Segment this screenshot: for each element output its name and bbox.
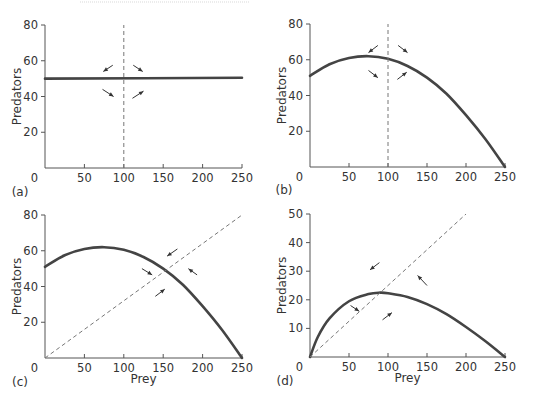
- trajectory-arrow-icon: [188, 269, 197, 275]
- x-tick-label: 50: [77, 361, 92, 375]
- isocline-dashed: [310, 214, 466, 357]
- x-tick-label: 150: [416, 170, 438, 184]
- x-tick-label: 50: [342, 360, 357, 374]
- isocline-solid: [310, 293, 505, 357]
- trajectory-arrow-icon: [383, 313, 392, 320]
- trajectory-arrow-icon: [167, 249, 177, 256]
- y-tick-label: 80: [23, 18, 38, 32]
- y-tick-label: 40: [288, 89, 303, 103]
- x-axis-title: Prey: [130, 372, 156, 386]
- panel-c: 20406080050100150200250PredatorsPrey(c): [10, 208, 253, 389]
- y-tick-label: 20: [23, 125, 38, 139]
- x-tick-label: 200: [455, 170, 477, 184]
- isocline-solid: [310, 56, 505, 167]
- y-tick-label: 60: [23, 54, 38, 68]
- y-tick-label: 80: [23, 208, 38, 222]
- x-axis-title: Prey: [394, 371, 420, 385]
- trajectory-arrow-icon: [103, 89, 114, 96]
- x-tick-label: 200: [192, 361, 214, 375]
- trajectory-arrow-icon: [369, 45, 378, 52]
- x-tick-label: 200: [192, 171, 214, 185]
- y-tick-label: 20: [288, 293, 303, 307]
- trajectory-arrow-icon: [103, 65, 112, 71]
- x-tick-label: 250: [231, 361, 253, 375]
- panel-label: (b): [276, 183, 293, 197]
- panel-label: (d): [277, 374, 294, 388]
- x-tick-label: 50: [77, 171, 92, 185]
- trajectory-arrow-icon: [397, 72, 406, 79]
- x-tick-label: 0: [31, 361, 38, 375]
- y-tick-label: 20: [288, 124, 303, 138]
- x-tick-label: 50: [342, 170, 357, 184]
- x-tick-label: 0: [296, 360, 303, 374]
- x-tick-label: 100: [113, 171, 135, 185]
- y-axis-title: Predators: [275, 257, 289, 314]
- y-tick-label: 80: [288, 17, 303, 31]
- y-axis-title: Predators: [275, 67, 289, 124]
- trajectory-arrow-icon: [370, 263, 379, 270]
- panel-label: (a): [12, 185, 29, 199]
- y-tick-label: 60: [288, 53, 303, 67]
- trajectory-arrow-icon: [351, 306, 360, 312]
- y-tick-label: 50: [288, 207, 303, 221]
- isocline-solid: [45, 78, 242, 79]
- trajectory-arrow-icon: [133, 65, 142, 71]
- panel-d: 1020304050050100150200250PredatorsPrey(d…: [275, 207, 516, 388]
- y-tick-label: 30: [288, 264, 303, 278]
- figure: 20406080050100150200250Predators(a) 2040…: [0, 0, 533, 400]
- x-tick-label: 150: [152, 171, 174, 185]
- trajectory-arrow-icon: [142, 269, 152, 275]
- trajectory-arrow-icon: [398, 45, 407, 52]
- y-axis-title: Predators: [10, 68, 24, 125]
- y-tick-label: 60: [23, 244, 38, 258]
- y-tick-label: 40: [23, 280, 38, 294]
- x-tick-label: 250: [494, 360, 516, 374]
- x-tick-label: 200: [455, 360, 477, 374]
- y-tick-label: 20: [23, 315, 38, 329]
- panel-label: (c): [12, 375, 28, 389]
- isocline-solid: [45, 247, 242, 358]
- y-tick-label: 40: [288, 236, 303, 250]
- y-tick-label: 40: [23, 90, 38, 104]
- trajectory-arrow-icon: [155, 289, 164, 296]
- y-tick-label: 10: [288, 321, 303, 335]
- x-tick-label: 250: [231, 171, 253, 185]
- trajectory-arrow-icon: [132, 91, 143, 98]
- y-axis-title: Predators: [10, 258, 24, 315]
- x-tick-label: 250: [494, 170, 516, 184]
- trajectory-arrow-icon: [418, 275, 427, 285]
- x-tick-label: 100: [377, 170, 399, 184]
- x-tick-label: 0: [296, 170, 303, 184]
- panel-a: 20406080050100150200250Predators(a): [10, 18, 253, 199]
- panel-b: 20406080050100150200250Predators(b): [275, 17, 516, 197]
- x-tick-label: 0: [31, 171, 38, 185]
- trajectory-arrow-icon: [369, 70, 378, 77]
- isocline-dashed: [45, 215, 242, 358]
